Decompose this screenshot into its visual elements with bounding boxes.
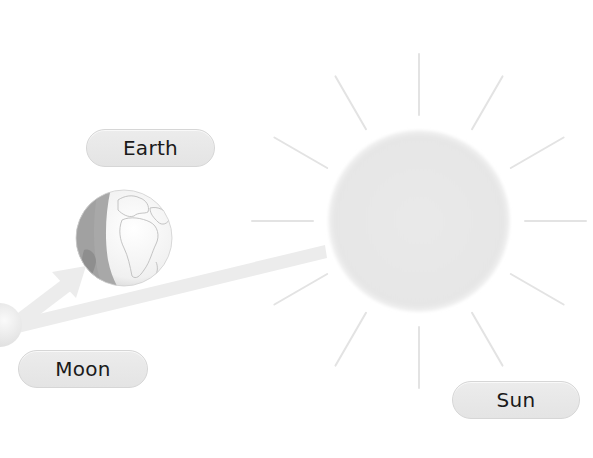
sun-ray bbox=[274, 138, 327, 169]
sun-ray bbox=[336, 76, 367, 129]
sun-ray bbox=[472, 313, 503, 366]
sun-ray bbox=[511, 274, 564, 305]
sun-label: Sun bbox=[452, 381, 580, 419]
moon-label: Moon bbox=[18, 350, 148, 388]
sun-ray bbox=[511, 138, 564, 169]
sun-icon bbox=[328, 130, 510, 312]
earth-label: Earth bbox=[86, 129, 215, 167]
moon-icon bbox=[0, 303, 22, 347]
earth-icon bbox=[76, 180, 172, 295]
sun-ray bbox=[472, 76, 503, 129]
sun-ray bbox=[336, 313, 367, 366]
sun-ray bbox=[274, 274, 327, 305]
